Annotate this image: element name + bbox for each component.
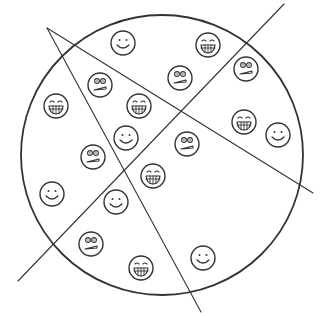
smile-face-icon [40,182,64,206]
smile-face-icon [104,190,128,214]
smile-face-icon [111,31,135,55]
grin-face-icon [232,110,256,134]
worried-face-icon [234,57,258,81]
grin-face-icon [196,33,220,57]
smile-face-icon [266,123,290,147]
worried-face-icon [88,73,112,97]
grin-face-icon [127,94,151,118]
worried-face-icon [79,232,103,256]
grin-face-icon [129,256,153,280]
smile-face-icon [191,246,215,270]
smile-face-icon [114,126,138,150]
grin-face-icon [44,94,68,118]
line-a [47,28,313,193]
diagram-svg [0,0,330,316]
worried-face-icon [81,145,105,169]
line-c [18,4,284,281]
grin-face-icon [141,164,165,188]
worried-face-icon [168,66,192,90]
worried-face-icon [175,132,199,156]
diagram-canvas: Circle divided by three lines containing… [0,0,330,316]
